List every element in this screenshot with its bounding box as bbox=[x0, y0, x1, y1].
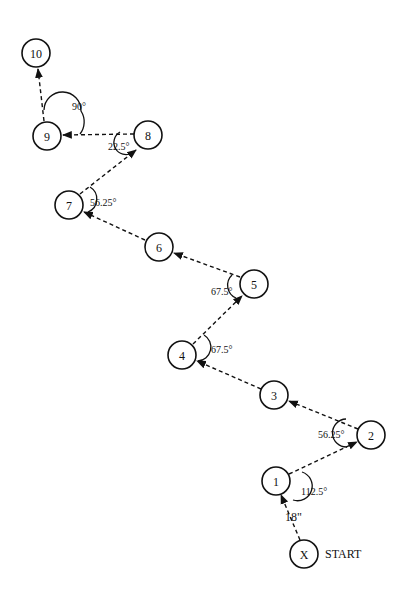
node-10: 10 bbox=[22, 39, 50, 67]
edge-8-9 bbox=[63, 134, 134, 135]
node-1: 1 bbox=[262, 467, 290, 495]
start-label: START bbox=[325, 547, 362, 561]
node-label: 2 bbox=[368, 429, 374, 443]
angle-label-9: 90° bbox=[72, 101, 86, 112]
edge-3-4 bbox=[197, 361, 261, 389]
node-label: 5 bbox=[251, 278, 257, 292]
node-label: 3 bbox=[271, 389, 277, 403]
edges bbox=[38, 69, 358, 540]
node-8: 8 bbox=[134, 121, 162, 149]
path-diagram: 112.5° 56.25° 67.5° 67.5° 56.25° 22.5° 9… bbox=[0, 0, 413, 599]
node-4: 4 bbox=[168, 341, 196, 369]
node-label: 10 bbox=[30, 47, 42, 61]
node-label: 7 bbox=[66, 199, 72, 213]
node-7: 7 bbox=[55, 191, 83, 219]
angle-label-8: 22.5° bbox=[108, 141, 130, 152]
angle-label-4: 67.5° bbox=[211, 344, 233, 355]
edge-5-6 bbox=[174, 253, 240, 277]
angle-labels: 112.5° 56.25° 67.5° 67.5° 56.25° 22.5° 9… bbox=[72, 101, 345, 497]
node-2: 2 bbox=[357, 421, 385, 449]
angle-label-1: 112.5° bbox=[301, 486, 327, 497]
node-6: 6 bbox=[145, 233, 173, 261]
node-label: X bbox=[300, 548, 309, 562]
edge-4-5 bbox=[193, 296, 242, 344]
edge-2-3 bbox=[289, 401, 358, 429]
angle-label-2: 56.25° bbox=[318, 429, 345, 440]
node-label: 9 bbox=[44, 130, 50, 144]
angle-label-5: 67.5° bbox=[211, 286, 233, 297]
node-label: 6 bbox=[156, 241, 162, 255]
node-label: 4 bbox=[179, 349, 185, 363]
node-9: 9 bbox=[33, 122, 61, 150]
edge-9-10 bbox=[38, 69, 44, 121]
node-label: 8 bbox=[145, 129, 151, 143]
edge-6-7 bbox=[84, 212, 145, 240]
angle-label-7: 56.25° bbox=[90, 197, 117, 208]
angle-arcs bbox=[44, 92, 347, 501]
node-5: 5 bbox=[240, 270, 268, 298]
node-x: X bbox=[290, 540, 318, 568]
angle-arc-4 bbox=[198, 335, 211, 361]
distance-label: 18" bbox=[285, 510, 302, 524]
node-3: 3 bbox=[260, 381, 288, 409]
edge-7-8 bbox=[80, 150, 136, 194]
node-label: 1 bbox=[273, 475, 279, 489]
